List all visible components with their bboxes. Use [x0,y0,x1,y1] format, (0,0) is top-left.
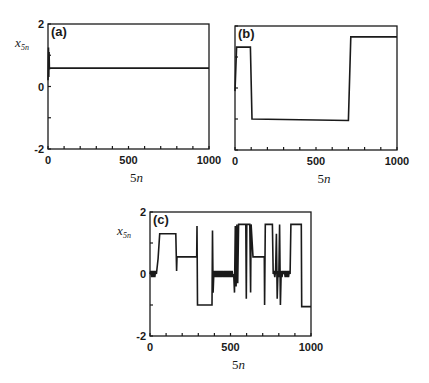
panel-label: (c) [153,212,169,227]
plot-frame [48,24,209,149]
y-tick-label: 2 [140,206,146,218]
figure-canvas: 05001000-202(a)5nx5n05001000(b)5n0500100… [0,0,429,383]
x-tick-label: 0 [45,154,51,166]
panel-label: (a) [51,24,67,39]
panel-label: (b) [238,26,255,41]
x-tick-label: 1000 [385,155,409,167]
panel-a: 05001000-202(a)5nx5n [14,18,221,185]
data-line [48,47,209,80]
x-tick-label: 500 [307,155,325,167]
y-tick-label: 2 [38,18,44,30]
x-tick-label: 0 [232,155,238,167]
y-axis-label: x5n [116,223,131,240]
x-tick-label: 500 [119,154,137,166]
x-tick-label: 500 [221,341,239,353]
data-line [150,224,311,306]
y-tick-label: -2 [34,143,44,155]
y-axis-label: x5n [14,35,29,52]
x-tick-label: 1000 [299,341,323,353]
x-axis-label: 5n [232,357,245,372]
panel-c: 05001000-202(c)5nx5n [116,206,323,372]
y-tick-label: -2 [136,330,146,342]
plot-frame [235,26,397,150]
x-tick-label: 0 [147,341,153,353]
x-axis-label: 5n [318,171,331,186]
panel-b: 05001000(b)5n [232,26,409,186]
x-tick-label: 1000 [197,154,221,166]
x-axis-label: 5n [130,170,143,185]
data-line [235,37,397,121]
y-tick-label: 0 [140,268,146,280]
y-tick-label: 0 [38,81,44,93]
